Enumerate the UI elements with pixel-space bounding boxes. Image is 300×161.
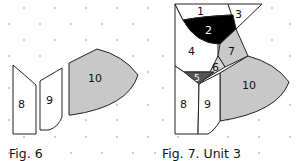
piece-8: 8: [13, 65, 36, 134]
piece-9-assembled-label: 9: [204, 98, 211, 111]
piece-7-label: 7: [228, 45, 235, 58]
piece-2-label: 2: [205, 24, 212, 37]
quilt-diagram: 8 9 10 Fig. 6 4 1 3: [0, 0, 300, 161]
figure-6-caption: Fig. 6: [9, 146, 43, 161]
figure-7-caption: Fig. 7. Unit 3: [162, 146, 241, 161]
piece-9: 9: [40, 68, 62, 130]
piece-10-assembled-label: 10: [242, 79, 256, 92]
piece-9-label: 9: [46, 94, 53, 107]
piece-10: 10: [69, 49, 138, 115]
piece-10-shape: [69, 49, 138, 115]
piece-1-label: 1: [197, 5, 204, 18]
piece-3-label: 3: [235, 8, 242, 21]
figure-7: 4 1 3 2 7 6 5: [162, 4, 289, 161]
piece-4-label: 4: [188, 45, 195, 58]
piece-10-label: 10: [88, 72, 102, 85]
piece-8-label: 8: [18, 98, 25, 111]
piece-8-assembled-label: 8: [180, 98, 187, 111]
figure-6: 8 9 10 Fig. 6: [9, 49, 138, 161]
piece-10-assembled: 10: [220, 56, 289, 121]
